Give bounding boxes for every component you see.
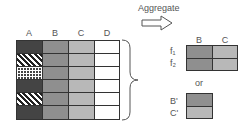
cell-d2 bbox=[94, 53, 120, 67]
cell-c1 bbox=[68, 40, 95, 54]
row-label-f1: f₁ bbox=[170, 46, 184, 56]
cell-a5 bbox=[16, 92, 43, 106]
aggregate-label: Aggregate bbox=[138, 3, 180, 13]
col-header-c: C bbox=[68, 28, 94, 38]
cell-b6 bbox=[42, 105, 69, 120]
col-header-a: A bbox=[16, 28, 42, 38]
brace-icon bbox=[120, 38, 142, 122]
cell-d3 bbox=[94, 66, 120, 80]
cell-b1 bbox=[42, 40, 69, 54]
cell-d4 bbox=[94, 79, 120, 93]
result-cell-b-f2 bbox=[186, 58, 213, 71]
or-label: or bbox=[186, 78, 212, 88]
alt-cell-b bbox=[186, 93, 213, 107]
cell-a3 bbox=[16, 66, 43, 80]
result-col-header-b: B bbox=[186, 35, 212, 45]
cell-c5 bbox=[68, 92, 95, 106]
row-label-b-prime: B' bbox=[170, 96, 184, 106]
right-arrow-icon bbox=[141, 15, 175, 31]
cell-c6 bbox=[68, 105, 95, 120]
aggregated-table bbox=[186, 45, 238, 71]
cell-b4 bbox=[42, 79, 69, 93]
source-table bbox=[16, 40, 120, 120]
cell-c3 bbox=[68, 66, 95, 80]
cell-b3 bbox=[42, 66, 69, 80]
alt-cell-c bbox=[186, 106, 213, 119]
transposed-table bbox=[186, 93, 213, 119]
cell-a1 bbox=[16, 40, 43, 54]
col-header-b: B bbox=[42, 28, 68, 38]
cell-d6 bbox=[94, 105, 120, 120]
row-label-f2: f₂ bbox=[170, 58, 184, 68]
result-col-header-c: C bbox=[212, 35, 238, 45]
cell-c4 bbox=[68, 79, 95, 93]
cell-a2 bbox=[16, 53, 43, 67]
cell-d5 bbox=[94, 92, 120, 106]
cell-b5 bbox=[42, 92, 69, 106]
result-cell-b-f1 bbox=[186, 45, 213, 59]
result-cell-c-f2 bbox=[212, 58, 238, 71]
cell-a4 bbox=[16, 79, 43, 93]
cell-c2 bbox=[68, 53, 95, 67]
cell-a6 bbox=[16, 105, 43, 120]
col-header-d: D bbox=[94, 28, 120, 38]
result-cell-c-f1 bbox=[212, 45, 238, 59]
cell-b2 bbox=[42, 53, 69, 67]
cell-d1 bbox=[94, 40, 120, 54]
row-label-c-prime: C' bbox=[170, 108, 184, 118]
